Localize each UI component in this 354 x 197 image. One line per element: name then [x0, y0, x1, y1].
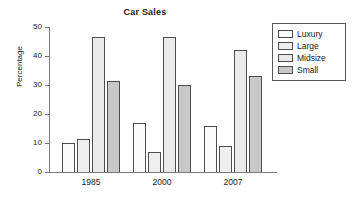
- x-axis-group-label-1985: 1985: [82, 177, 101, 187]
- bar-large-2000: [148, 152, 161, 172]
- bar-luxury-2000: [133, 123, 146, 172]
- chart-legend: LuxuryLargeMidsizeSmall: [272, 23, 346, 81]
- bar-chart: Car Sales Percentage 0102030405019852000…: [0, 0, 354, 197]
- y-axis-label: Percentage: [15, 22, 24, 112]
- bar-large-2007: [219, 146, 232, 172]
- legend-label-luxury: Luxury: [297, 29, 323, 39]
- bar-small-2000: [178, 85, 191, 172]
- bar-large-1985: [77, 139, 90, 172]
- y-axis-tick-label: 30: [33, 80, 42, 89]
- legend-label-midsize: Midsize: [297, 53, 326, 63]
- chart-title: Car Sales: [0, 7, 290, 17]
- y-axis-tick: 10: [45, 143, 49, 144]
- legend-swatch-icon-large: [278, 42, 293, 50]
- legend-swatch-icon-small: [278, 66, 293, 74]
- y-axis-tick-label: 20: [33, 109, 42, 118]
- bar-midsize-2007: [234, 50, 247, 172]
- y-axis-tick: 20: [45, 114, 49, 115]
- y-axis-tick-label: 0: [38, 167, 42, 176]
- bar-luxury-1985: [62, 143, 75, 172]
- legend-label-large: Large: [297, 41, 319, 51]
- legend-item-small: Small: [278, 64, 341, 76]
- y-axis-line: [49, 27, 50, 173]
- bar-midsize-2000: [163, 37, 176, 172]
- y-axis-tick-label: 50: [33, 22, 42, 31]
- x-axis-line: [49, 172, 277, 173]
- legend-label-small: Small: [297, 65, 318, 75]
- y-axis-tick-label: 10: [33, 138, 42, 147]
- y-axis-tick: 50: [45, 27, 49, 28]
- legend-item-midsize: Midsize: [278, 52, 341, 64]
- y-axis-tick: 30: [45, 85, 49, 86]
- bar-luxury-2007: [204, 126, 217, 172]
- bar-midsize-1985: [92, 37, 105, 172]
- x-axis-group-label-2007: 2007: [224, 177, 243, 187]
- y-axis-tick: 0: [45, 172, 49, 173]
- plot-area: 01020304050198520002007: [49, 27, 270, 172]
- legend-item-luxury: Luxury: [278, 28, 341, 40]
- legend-swatch-icon-luxury: [278, 30, 293, 38]
- x-axis-group-label-2000: 2000: [153, 177, 172, 187]
- bar-small-2007: [249, 76, 262, 172]
- y-axis-tick-label: 40: [33, 51, 42, 60]
- legend-swatch-icon-midsize: [278, 54, 293, 62]
- legend-item-large: Large: [278, 40, 341, 52]
- y-axis-tick: 40: [45, 56, 49, 57]
- bar-small-1985: [107, 81, 120, 172]
